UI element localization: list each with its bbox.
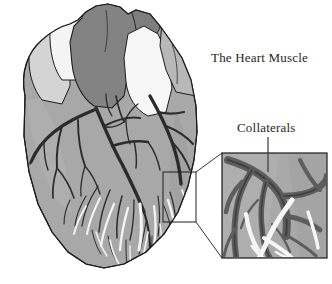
page-title: The Heart Muscle [211, 50, 308, 66]
collaterals-inset [222, 153, 327, 258]
heart-muscle-figure: The Heart Muscle Collaterals [0, 0, 332, 284]
vein-branch-10 [160, 224, 162, 254]
magnifier-connector-lines [196, 153, 222, 258]
connector-top [196, 153, 222, 172]
illustration-canvas [0, 0, 332, 284]
connector-bottom [196, 222, 222, 258]
collaterals-callout-label: Collaterals [237, 120, 296, 136]
vein-branch-6 [182, 190, 190, 220]
heart-illustration [24, 0, 200, 268]
